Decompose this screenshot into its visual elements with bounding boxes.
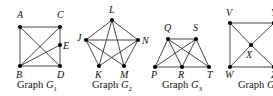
vertex-e: [58, 43, 62, 47]
caption-subscript: 2: [128, 85, 132, 93]
edge-x-z: [251, 45, 273, 67]
vertex-label-n: N: [141, 35, 150, 46]
edge-b-e: [20, 45, 60, 66]
vertex-b: [18, 64, 22, 68]
edge-l-j: [86, 20, 112, 40]
vertex-label-q: Q: [164, 22, 172, 33]
graphs-canvas: ACEBDGraph G1LJNKMGraph G2QSPRTGraph G3V…: [0, 0, 273, 96]
graph-caption-g1: Graph G1: [17, 79, 57, 93]
graph-g4: VYXWZGraph G4: [225, 7, 273, 93]
caption-prefix: Graph: [92, 79, 121, 90]
vertex-a: [18, 25, 22, 29]
graph-g2: LJNKMGraph G2: [77, 4, 150, 93]
graph-figure: ACEBDGraph G1LJNKMGraph G2QSPRTGraph G3V…: [0, 0, 273, 96]
vertex-label-x: X: [245, 49, 253, 60]
vertex-n: [136, 38, 140, 42]
vertex-k: [97, 64, 101, 68]
edge-v-x: [230, 23, 251, 45]
vertex-label-v: V: [226, 7, 234, 18]
vertex-v: [228, 21, 232, 25]
caption-prefix: Graph: [17, 79, 46, 90]
vertex-label-l: L: [108, 4, 115, 15]
vertex-l: [110, 18, 114, 22]
graph-caption-g3: Graph G3: [162, 79, 202, 93]
graph-caption-g4: Graph G4: [238, 79, 273, 93]
edge-l-n: [112, 20, 138, 40]
vertex-x: [249, 43, 253, 47]
vertex-label-j: J: [77, 32, 82, 43]
vertex-label-p: P: [150, 69, 157, 80]
caption-prefix: Graph: [162, 79, 191, 90]
vertex-label-a: A: [16, 9, 24, 20]
vertex-label-e: E: [62, 40, 69, 51]
vertex-label-w: W: [225, 69, 235, 80]
vertex-m: [122, 64, 126, 68]
vertex-label-t: T: [207, 69, 214, 80]
graph-g1: ACEBDGraph G1: [16, 9, 69, 93]
vertex-label-y: Y: [271, 7, 273, 18]
caption-letter: G: [267, 79, 273, 90]
vertex-label-c: C: [57, 9, 64, 20]
vertex-s: [194, 37, 198, 41]
vertex-label-s: S: [193, 22, 198, 33]
vertex-label-d: D: [56, 69, 65, 80]
edge-n-m: [124, 40, 138, 66]
vertex-j: [84, 38, 88, 42]
caption-prefix: Graph: [238, 79, 267, 90]
edge-s-r: [182, 39, 196, 67]
caption-subscript: 3: [198, 85, 202, 93]
vertex-c: [58, 25, 62, 29]
vertex-q: [166, 37, 170, 41]
edge-j-k: [86, 40, 99, 66]
edge-x-y: [251, 23, 273, 45]
graph-g3: QSPRTGraph G3: [150, 22, 214, 93]
vertex-d: [58, 64, 62, 68]
graph-caption-g2: Graph G2: [92, 79, 132, 93]
caption-subscript: 1: [53, 85, 57, 93]
